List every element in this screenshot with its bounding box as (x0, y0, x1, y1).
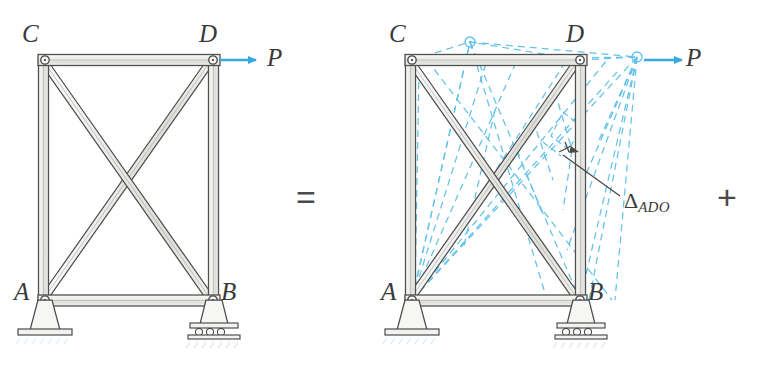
deflection-subscript: ADO (638, 199, 670, 215)
left-label-c: C (22, 20, 39, 48)
left-label-d: D (199, 20, 217, 48)
deflection-label: ΔADO (624, 188, 670, 216)
deflected-shape-dashed (412, 42, 637, 300)
right-label-a: A (381, 278, 396, 306)
left-label-b: B (221, 278, 236, 306)
right-roller-support-b (553, 300, 607, 348)
left-roller-support-b (186, 300, 240, 348)
left-label-load-p: P (267, 44, 282, 72)
plus-operator: + (717, 180, 737, 214)
figure-canvas: C D A B P C D A B P ΔADO = + (0, 0, 760, 392)
right-label-c: C (389, 20, 406, 48)
left-truss-group (16, 55, 256, 349)
right-label-d: D (566, 20, 584, 48)
right-label-b: B (588, 278, 603, 306)
deflection-symbol: Δ (624, 188, 638, 213)
left-label-a: A (14, 278, 29, 306)
right-truss-frame (405, 55, 587, 307)
left-truss-frame (38, 55, 220, 307)
right-label-load-p: P (686, 44, 701, 72)
equals-operator: = (296, 180, 316, 214)
